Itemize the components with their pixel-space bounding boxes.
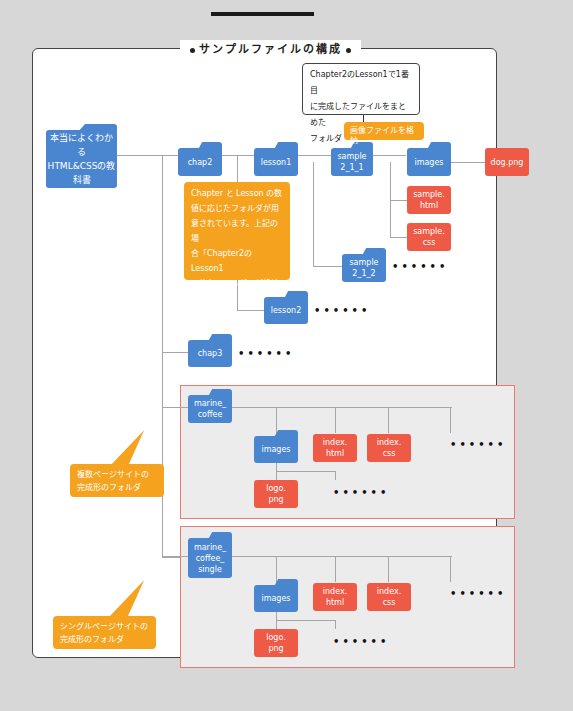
connector	[388, 407, 389, 433]
file-sample-html[interactable]: sample.html	[407, 186, 451, 214]
note-images: 画像ファイルを格納	[344, 122, 424, 140]
file-label: logo.	[266, 484, 286, 493]
file-label: css	[423, 238, 436, 247]
file-dog-png[interactable]: dog.png	[485, 148, 529, 176]
folder-label: lesson1	[261, 157, 292, 168]
folder-images[interactable]: images	[254, 585, 298, 612]
connector	[313, 266, 343, 267]
folder-label: images	[414, 157, 443, 168]
file-label: css	[383, 449, 396, 458]
folder-label: sample	[349, 258, 378, 267]
folder-label: single	[198, 565, 222, 574]
ellipsis: ••••••	[450, 439, 506, 450]
note-line: れています。	[191, 306, 283, 321]
file-index-css[interactable]: index.css	[367, 583, 411, 611]
file-sample-css[interactable]: sample.css	[407, 223, 451, 251]
folder-images[interactable]: images	[407, 148, 451, 176]
file-label: html	[326, 449, 344, 458]
folder-label: HTML&CSSの教科書	[48, 161, 116, 185]
folder-label: coffee	[198, 410, 223, 419]
connector	[390, 237, 408, 238]
file-logo-png[interactable]: logo.png	[254, 629, 298, 657]
folder-label: coffee_	[196, 554, 225, 563]
file-index-css[interactable]: index.css	[367, 434, 411, 462]
file-label: dog.png	[491, 157, 524, 168]
file-label: index.	[323, 438, 347, 447]
folder-chap2[interactable]: chap2	[178, 148, 222, 176]
connector	[335, 556, 336, 582]
ellipsis: ••••••	[333, 487, 389, 498]
connector	[388, 556, 389, 582]
folder-images[interactable]: images	[254, 436, 298, 463]
folder-label: images	[261, 593, 290, 604]
connector	[335, 471, 336, 480]
note-line: で使うフォルダ」が格納さ	[191, 276, 283, 306]
folder-label: marine_	[194, 399, 226, 408]
folder-label: images	[261, 444, 290, 455]
note-line: シングルページサイトの	[60, 620, 149, 633]
note-single-page: シングルページサイトの 完成形のフォルダ	[53, 616, 156, 649]
folder-label: 2_1_1	[340, 163, 363, 172]
ellipsis: ••••••	[314, 305, 370, 316]
top-divider	[211, 12, 314, 16]
file-label: sample.	[413, 227, 445, 236]
connector	[162, 352, 188, 353]
connector	[162, 155, 163, 558]
note-line: 完成形のフォルダ	[77, 481, 157, 494]
note-line: 複数ページサイトの	[77, 468, 157, 481]
folder-label: 2_1_2	[352, 269, 375, 278]
note-chapter-lesson: Chapter と Lesson の数 値に応じたフォルダが用 意されています。…	[184, 182, 290, 280]
connector	[450, 407, 451, 433]
note-line: 意されています。上記の場	[191, 216, 283, 246]
folder-label: marine_	[194, 543, 226, 552]
folder-lesson1[interactable]: lesson1	[254, 148, 298, 176]
file-index-html[interactable]: index.html	[313, 583, 357, 611]
connector	[390, 200, 408, 201]
file-label: png	[268, 495, 283, 504]
connector	[276, 620, 336, 621]
note-line: 値に応じたフォルダが用	[191, 201, 283, 216]
file-label: css	[383, 598, 396, 607]
folder-label: chap3	[198, 348, 223, 359]
folder-sample-2-1-2[interactable]: sample2_1_2	[342, 254, 386, 282]
folder-marine-coffee-single[interactable]: marine_coffee_single	[188, 538, 232, 578]
folder-chap3[interactable]: chap3	[188, 340, 232, 367]
connector	[335, 407, 336, 433]
folder-label: chap2	[188, 157, 213, 168]
file-label: index.	[377, 438, 401, 447]
file-label: index.	[323, 587, 347, 596]
note-multi-page: 複数ページサイトの 完成形のフォルダ	[70, 464, 164, 497]
connector	[335, 620, 336, 629]
folder-marine-coffee[interactable]: marine_coffee	[188, 395, 232, 423]
file-label: png	[268, 644, 283, 653]
file-label: index.	[377, 587, 401, 596]
ellipsis: ••••••	[238, 348, 294, 359]
folder-label: sample	[337, 152, 366, 161]
ellipsis: ••••••	[450, 588, 506, 599]
callout-box: Chapter2のLesson1で1番目 に完成したファイルをまとめた フォルダ	[302, 63, 420, 115]
note-line: Chapter と Lesson の数	[191, 186, 283, 201]
note-line: 完成形のフォルダ	[60, 633, 149, 646]
connector	[313, 162, 314, 266]
folder-label: 本当によくわかる	[50, 133, 113, 157]
note-line: 合「Chapter2のLesson1	[191, 246, 283, 276]
file-label: html	[326, 598, 344, 607]
connector	[116, 155, 346, 156]
file-logo-png[interactable]: logo.png	[254, 480, 298, 508]
connector	[276, 471, 336, 472]
connector	[446, 162, 486, 163]
callout-line: Chapter2のLesson1で1番目	[310, 67, 412, 99]
folder-sample-2-1-1[interactable]: sample2_1_1	[331, 148, 373, 176]
ellipsis: ••••••	[333, 636, 389, 647]
file-label: sample.	[413, 190, 445, 199]
ellipsis: ••••••	[392, 261, 448, 272]
file-label: logo.	[266, 633, 286, 642]
file-label: html	[420, 201, 438, 210]
diagram-title: サンプルファイルの構成	[180, 40, 361, 56]
file-index-html[interactable]: index.html	[313, 434, 357, 462]
connector	[450, 556, 451, 582]
root-folder[interactable]: 本当によくわかるHTML&CSSの教科書	[46, 130, 117, 188]
